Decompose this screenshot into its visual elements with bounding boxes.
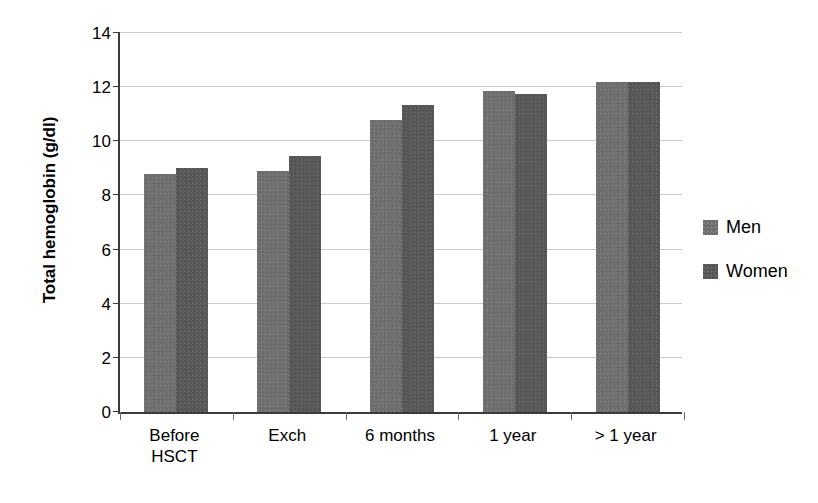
y-tick-label: 0 bbox=[102, 404, 111, 421]
legend-item-women: Women bbox=[703, 262, 788, 280]
chart-legend: Men Women bbox=[703, 218, 788, 306]
bar-men-2 bbox=[370, 120, 402, 412]
legend-label-women: Women bbox=[726, 262, 788, 280]
legend-swatch-women bbox=[703, 264, 718, 279]
x-axis-label-2: 6 months bbox=[365, 425, 435, 446]
bar-men-4 bbox=[596, 82, 628, 412]
y-tick-mark bbox=[113, 86, 120, 87]
plot-area: 02468101214 bbox=[118, 33, 682, 414]
y-tick-label: 2 bbox=[102, 349, 111, 366]
y-tick-mark bbox=[113, 140, 120, 141]
bar-women-3 bbox=[515, 94, 547, 412]
legend-label-men: Men bbox=[726, 218, 761, 236]
x-axis-label-0: Before HSCT bbox=[149, 425, 199, 467]
y-tick-label: 6 bbox=[102, 241, 111, 258]
y-tick-label: 8 bbox=[102, 187, 111, 204]
bar-women-0 bbox=[176, 168, 208, 412]
y-tick-mark bbox=[113, 194, 120, 195]
bar-men-3 bbox=[483, 91, 515, 412]
bar-men-1 bbox=[257, 171, 289, 412]
x-axis-label-1: Exch bbox=[268, 425, 306, 446]
y-tick-mark bbox=[113, 411, 120, 412]
y-tick-mark bbox=[113, 249, 120, 250]
x-tick-mark bbox=[684, 412, 685, 420]
bar-women-2 bbox=[402, 105, 434, 412]
bar-women-4 bbox=[628, 82, 660, 412]
bar-chart-figure: Total hemoglobin (g/dl) 02468101214 Befo… bbox=[0, 0, 818, 503]
legend-swatch-men bbox=[703, 220, 718, 235]
bar-men-0 bbox=[144, 174, 176, 412]
legend-item-men: Men bbox=[703, 218, 788, 236]
y-tick-mark bbox=[113, 357, 120, 358]
x-axis-label-4: > 1 year bbox=[595, 425, 657, 446]
y-tick-mark bbox=[113, 32, 120, 33]
y-tick-label: 14 bbox=[92, 25, 111, 42]
y-tick-label: 10 bbox=[92, 133, 111, 150]
bar-group bbox=[144, 33, 208, 412]
y-axis-title: Total hemoglobin (g/dl) bbox=[40, 10, 60, 410]
y-tick-label: 4 bbox=[102, 295, 111, 312]
x-tick-mark bbox=[346, 412, 347, 420]
x-axis-label-3: 1 year bbox=[489, 425, 536, 446]
bar-group bbox=[370, 33, 434, 412]
bar-women-1 bbox=[289, 156, 321, 412]
x-tick-mark bbox=[233, 412, 234, 420]
x-tick-mark bbox=[571, 412, 572, 420]
bar-group bbox=[257, 33, 321, 412]
x-tick-mark bbox=[458, 412, 459, 420]
bar-group bbox=[483, 33, 547, 412]
bar-group bbox=[596, 33, 660, 412]
x-tick-mark bbox=[120, 412, 121, 420]
y-tick-label: 12 bbox=[92, 79, 111, 96]
y-tick-mark bbox=[113, 303, 120, 304]
